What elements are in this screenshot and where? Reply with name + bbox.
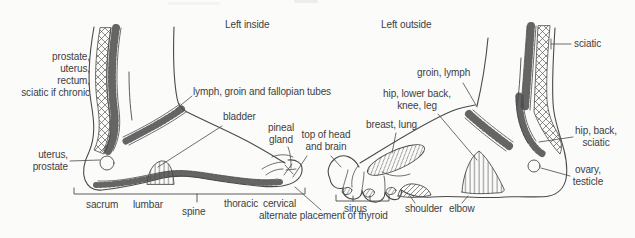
scan-artifact bbox=[168, 2, 220, 5]
lymph-groin-band bbox=[123, 104, 186, 145]
knee-leg-zone bbox=[462, 151, 504, 194]
foot-line-art bbox=[0, 0, 635, 238]
right-foot-drawing bbox=[328, 26, 573, 203]
spine-bracket bbox=[74, 188, 305, 202]
right-leg-front-line bbox=[477, 38, 488, 106]
spine-band bbox=[96, 171, 280, 185]
top-head-left-pointer bbox=[293, 156, 307, 177]
reflexology-foot-diagram: Left inside Left outside prostate, uteru… bbox=[0, 0, 635, 238]
ovary-testicle-point bbox=[528, 160, 540, 172]
uterus-prostate-point bbox=[100, 156, 114, 170]
groin-lymph-band bbox=[465, 110, 513, 151]
breast-lung-zone bbox=[364, 139, 428, 182]
left-foot-drawing bbox=[70, 27, 341, 210]
shoulder-zone bbox=[398, 184, 431, 198]
ovary-pointer bbox=[541, 168, 570, 176]
right-leg-sciatic-crosshatch-band bbox=[534, 26, 561, 154]
uterus-pointer bbox=[70, 160, 100, 161]
pineal-point-mark bbox=[284, 164, 296, 175]
groin-pointer bbox=[463, 83, 477, 107]
bladder-pointer bbox=[158, 126, 222, 167]
scan-artifact bbox=[294, 0, 318, 3]
left-foot-instep-line bbox=[174, 27, 285, 163]
pineal-pointer bbox=[288, 147, 291, 168]
left-ankle-inner-line bbox=[129, 72, 132, 120]
thyroid-pointer bbox=[295, 187, 321, 210]
toe-nail bbox=[385, 187, 396, 196]
